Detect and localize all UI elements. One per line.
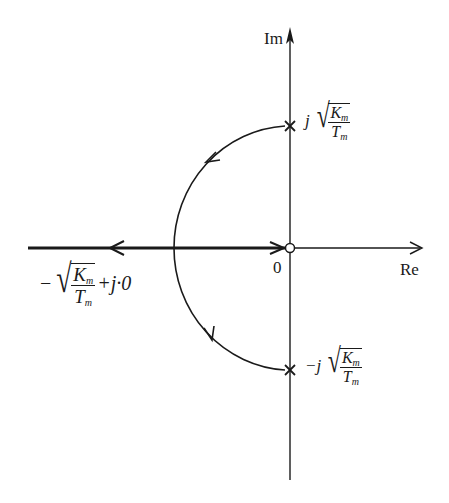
origin-zero-marker bbox=[286, 244, 295, 253]
imaginary-axis bbox=[286, 27, 294, 480]
numerator: K bbox=[330, 104, 341, 121]
real-axis bbox=[294, 242, 422, 254]
upper-pole-prefix: j bbox=[305, 112, 310, 129]
im-axis-label: Im bbox=[264, 30, 283, 47]
re-axis-label: Re bbox=[400, 261, 419, 278]
denominator: T bbox=[331, 123, 340, 140]
root-locus-diagram bbox=[0, 0, 449, 503]
numerator-sub: m bbox=[353, 357, 360, 368]
numerator: K bbox=[73, 264, 86, 285]
lower-pole-prefix: −j bbox=[305, 357, 321, 374]
denominator: T bbox=[343, 368, 352, 385]
lower-pole-label: −j √ Km Tm bbox=[305, 345, 362, 385]
numerator-sub: m bbox=[341, 112, 348, 123]
numerator: K bbox=[342, 349, 353, 366]
breakaway-prefix: − bbox=[40, 273, 51, 293]
radical-icon: √ bbox=[328, 344, 341, 384]
breakaway-point-label: − √ Km Tm +j·0 bbox=[40, 260, 131, 306]
real-axis-locus bbox=[28, 241, 286, 255]
denominator-sub: m bbox=[340, 131, 347, 142]
denominator-sub: m bbox=[85, 297, 92, 308]
radical-icon: √ bbox=[317, 99, 330, 139]
breakaway-suffix: +j·0 bbox=[97, 273, 131, 293]
origin-label: 0 bbox=[273, 259, 282, 276]
lower-arc bbox=[174, 248, 285, 370]
upper-arc bbox=[174, 126, 285, 248]
denominator: T bbox=[74, 286, 85, 307]
upper-pole-sqrt: √ Km Tm bbox=[314, 100, 351, 140]
lower-pole-sqrt: √ Km Tm bbox=[325, 345, 362, 385]
denominator-sub: m bbox=[352, 376, 359, 387]
numerator-sub: m bbox=[86, 275, 93, 286]
upper-pole-label: j √ Km Tm bbox=[305, 100, 350, 140]
radical-icon: √ bbox=[57, 259, 72, 305]
lower-arc-arrow-icon bbox=[204, 326, 214, 340]
breakaway-sqrt: √ Km Tm bbox=[53, 260, 95, 306]
